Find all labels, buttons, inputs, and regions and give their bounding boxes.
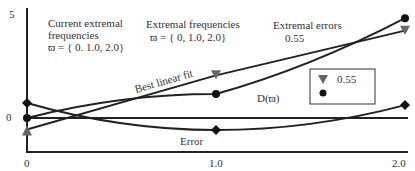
current-frequencies-title-2: frequencies [48,29,99,41]
y-tick-label-0: 0 [6,111,12,123]
series-2-marker-2 [400,100,410,110]
d-omega-label: D(ϖ) [257,92,280,105]
extremal-frequencies-set: ϖ = { 0, 1.0, 2.0} [150,31,226,43]
series-2-marker-1 [211,125,221,135]
legend-label-0: 0.55 [337,73,357,85]
series-1-marker-0 [23,114,31,122]
x-tick-label-0: 0 [24,157,30,169]
series-2-marker-0 [22,98,32,108]
series-0-marker-2 [400,26,410,35]
y-tick-label-5: 5 [9,8,15,20]
current-frequencies-title-1: Current extremal [48,17,123,29]
series-1-marker-1 [212,90,220,98]
legend-marker-circle [320,90,327,97]
legend: 0.55 [310,69,375,104]
x-tick-label-1: 1.0 [209,157,223,169]
chart: 5 0 0 1.0 2.0 Current extremal frequenci… [0,0,415,171]
x-tick-label-2: 2.0 [392,157,406,169]
series-1-marker-2 [401,14,409,22]
error-label: Error [180,135,204,147]
series-0-marker-0 [22,125,32,135]
extremal-errors-value: 0.55 [285,32,305,44]
extremal-frequencies-title: Extremal frequencies [146,18,240,30]
extremal-errors-title: Extremal errors [273,19,342,31]
current-frequencies-set: ϖ = { 0. 1.0, 2.0} [48,41,124,53]
